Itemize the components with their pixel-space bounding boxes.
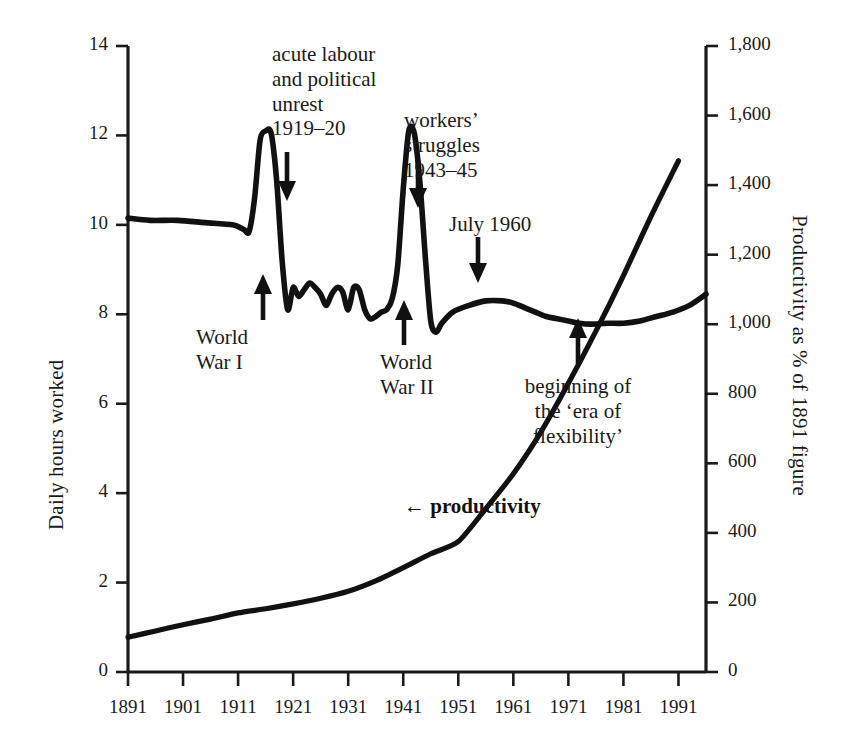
annotation-line: July 1960 (449, 212, 531, 237)
axis-tick-label: 6 (99, 391, 109, 413)
axis-tick-label: 1931 (329, 696, 367, 718)
annotation-line: and political (272, 67, 376, 92)
annotation-line: 1919–20 (272, 116, 376, 141)
axis-tick-label: 1921 (274, 696, 312, 718)
axis-tick-label: 1,200 (728, 242, 771, 264)
axis-tick-label: 800 (728, 381, 757, 403)
left-axis-title: Daily hours worked (44, 360, 69, 530)
axis-tick-label: 1951 (439, 696, 477, 718)
axis-tick-label: 400 (728, 520, 757, 542)
axis-tick-label: 1981 (604, 696, 642, 718)
annotation-acute-labour-unrest: acute labour and political unrest 1919–2… (272, 42, 376, 141)
axis-tick-label: 10 (89, 212, 108, 234)
annotation-line: World (380, 350, 434, 375)
annotation-line: War I (196, 350, 248, 375)
axis-tick-label: 1941 (384, 696, 422, 718)
arrow-down-july-1960 (469, 237, 487, 283)
axis-tick-label: 0 (99, 659, 109, 681)
axis-tick-label: 600 (728, 450, 757, 472)
arrow-down-unrest (278, 152, 296, 201)
axis-tick-label: 1911 (219, 696, 256, 718)
arrow-up-world-war-two (395, 300, 413, 345)
axis-tick-label: 4 (99, 480, 109, 502)
axis-tick-label: 1,600 (728, 103, 771, 125)
annotation-line: struggles (404, 133, 480, 158)
annotation-line: 1943–45 (404, 158, 480, 183)
annotation-workers-struggles: workers’ struggles 1943–45 (404, 108, 480, 182)
arrow-up-world-war-one (254, 274, 272, 320)
axis-tick-label: 12 (89, 122, 108, 144)
axis-tick-label: 1,800 (728, 33, 771, 55)
annotation-line: the ‘era of (482, 399, 674, 424)
axis-tick-label: 0 (728, 659, 738, 681)
annotation-line: workers’ (404, 108, 480, 133)
annotation-line: World (196, 325, 248, 350)
chart-figure: Daily hours worked Productivity as % of … (0, 0, 847, 748)
annotation-line: acute labour (272, 42, 376, 67)
annotation-line: flexibility’ (482, 424, 674, 449)
annotation-line: War II (380, 375, 434, 400)
axis-tick-label: 1,400 (728, 172, 771, 194)
axis-tick-label: 8 (99, 301, 109, 323)
right-axis-title: Productivity as % of 1891 figure (787, 215, 812, 496)
annotation-july-1960: July 1960 (449, 212, 531, 237)
axis-tick-label: 200 (728, 589, 757, 611)
axis-tick-label: 1901 (164, 696, 202, 718)
axis-tick-label: 1991 (659, 696, 697, 718)
annotation-world-war-one: World War I (196, 325, 248, 375)
axis-tick-label: 1971 (549, 696, 587, 718)
axis-tick-label: 1891 (109, 696, 147, 718)
annotation-line: beginning of (482, 374, 674, 399)
axis-tick-label: 1,000 (728, 311, 771, 333)
axis-tick-label: 14 (89, 33, 108, 55)
productivity-series-label: ← productivity (404, 494, 541, 519)
axis-tick-label: 1961 (494, 696, 532, 718)
axis-tick-label: 2 (99, 570, 109, 592)
annotation-era-of-flexibility: beginning of the ‘era of flexibility’ (482, 374, 674, 448)
annotation-line: unrest (272, 92, 376, 117)
annotation-world-war-two: World War II (380, 350, 434, 400)
